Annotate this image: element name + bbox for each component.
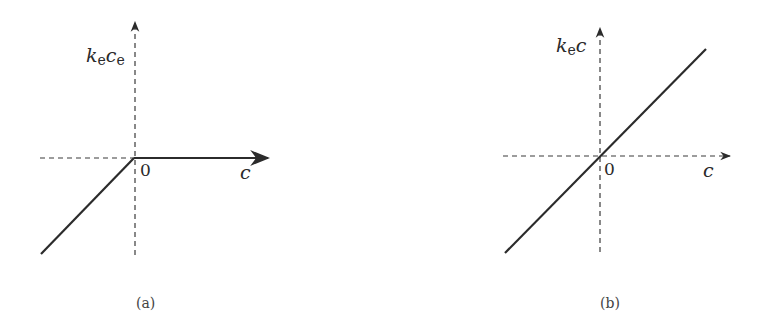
panel-a-x-label: c	[240, 161, 251, 183]
panel-a-origin-label: 0	[140, 160, 151, 180]
panel-a-caption: (a)	[136, 295, 155, 311]
panel-a-y-label: kece	[86, 44, 125, 68]
panel-b-y-var-c: c	[576, 34, 587, 56]
panel-a-plot	[40, 22, 268, 255]
panel-b-y-var-k: k	[556, 34, 568, 56]
panel-a-curve	[41, 158, 134, 254]
panel-b-curve	[505, 49, 706, 253]
panel-b-x-label: c	[703, 159, 714, 181]
panel-b-plot	[503, 28, 730, 253]
panel-a-y-sub-e: e	[98, 52, 106, 68]
panel-b-y-sub-e: e	[568, 42, 576, 58]
panel-b-origin-label: 0	[604, 159, 615, 179]
panel-b-caption: (b)	[600, 295, 620, 311]
panel-a-y-sub-e2: e	[116, 52, 124, 68]
panel-a-y-var-c: c	[106, 44, 117, 66]
panel-a-y-var-k: k	[86, 44, 98, 66]
panel-b-y-label: kec	[556, 34, 586, 58]
